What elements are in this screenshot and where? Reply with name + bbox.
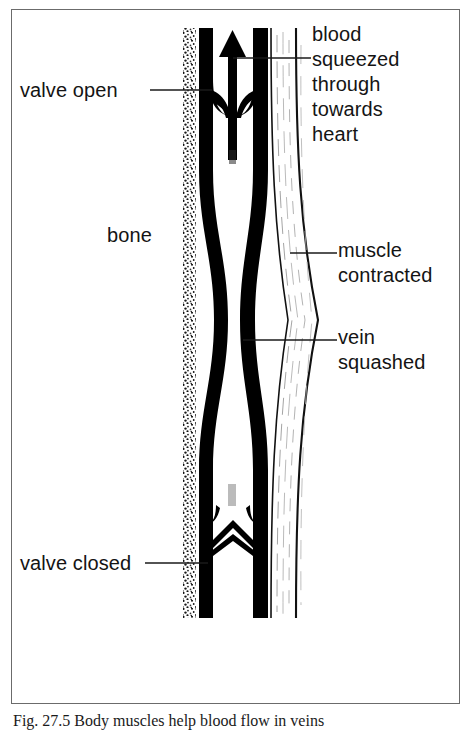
blood-flow-arrow (219, 30, 246, 164)
label-blood-squeezed-through-towards-heart: blood squeezed through towards heart (312, 22, 400, 147)
label-valve-closed: valve closed (20, 551, 131, 576)
label-muscle-contracted: muscle contracted (338, 238, 432, 288)
label-valve-open: valve open (20, 78, 118, 103)
figure-caption: Fig. 27.5 Body muscles help blood flow i… (13, 711, 471, 730)
bone-shape (183, 28, 196, 618)
label-vein-squashed: vein squashed (338, 325, 426, 375)
label-bone: bone (107, 223, 152, 248)
